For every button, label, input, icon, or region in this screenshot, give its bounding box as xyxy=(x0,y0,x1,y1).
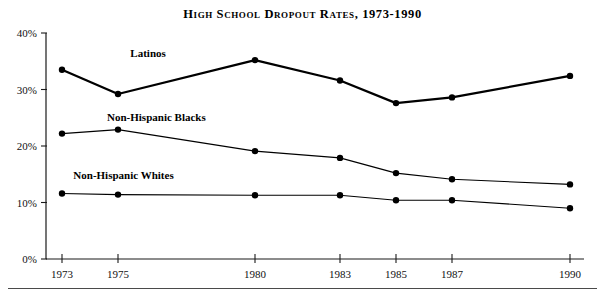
chart-figure: High School Dropout Rates, 1973-1990 0%1… xyxy=(0,0,605,299)
x-tick-label: 1983 xyxy=(329,268,352,280)
x-axis-ticks: 1973197519801983198519871990 xyxy=(51,254,582,280)
data-point-marker xyxy=(252,57,258,63)
data-point-marker xyxy=(337,77,343,83)
y-tick-label: 40% xyxy=(17,27,37,39)
x-tick-label: 1985 xyxy=(385,268,408,280)
chart-title: High School Dropout Rates, 1973-1990 xyxy=(0,7,605,22)
data-point-marker xyxy=(252,148,258,154)
data-series-group xyxy=(59,57,573,212)
data-point-marker xyxy=(567,181,573,187)
data-point-marker xyxy=(393,100,399,106)
data-point-marker xyxy=(115,91,121,97)
data-point-marker xyxy=(567,205,573,211)
data-point-marker xyxy=(337,155,343,161)
data-point-marker xyxy=(567,73,573,79)
y-tick-label: 30% xyxy=(17,84,37,96)
data-point-marker xyxy=(449,197,455,203)
data-point-marker xyxy=(59,130,65,136)
y-tick-label: 20% xyxy=(17,140,37,152)
data-point-marker xyxy=(449,94,455,100)
x-tick-label: 1980 xyxy=(244,268,267,280)
series-labels-group: LatinosNon-Hispanic BlacksNon-Hispanic W… xyxy=(73,47,206,181)
x-tick-label: 1973 xyxy=(51,268,74,280)
data-point-marker xyxy=(337,192,343,198)
data-point-marker xyxy=(393,197,399,203)
x-tick-label: 1990 xyxy=(559,268,582,280)
line-chart-plot: 0%10%20%30%40% 1973197519801983198519871… xyxy=(0,0,605,299)
footer-divider xyxy=(8,288,597,289)
series-line-non-hispanic-whites xyxy=(62,194,570,209)
y-tick-label: 0% xyxy=(22,253,37,265)
data-point-marker xyxy=(115,191,121,197)
data-point-marker xyxy=(449,176,455,182)
data-point-marker xyxy=(252,192,258,198)
x-tick-label: 1975 xyxy=(107,268,130,280)
x-tick-label: 1987 xyxy=(441,268,464,280)
data-point-marker xyxy=(393,170,399,176)
y-tick-label: 10% xyxy=(17,197,37,209)
series-label-non-hispanic-blacks: Non-Hispanic Blacks xyxy=(107,111,206,123)
y-axis-ticks: 0%10%20%30%40% xyxy=(17,27,47,265)
series-label-non-hispanic-whites: Non-Hispanic Whites xyxy=(73,169,174,181)
series-line-latinos xyxy=(62,60,570,103)
data-point-marker xyxy=(59,190,65,196)
data-point-marker xyxy=(59,67,65,73)
series-label-latinos: Latinos xyxy=(130,47,166,59)
chart-axes xyxy=(46,33,584,259)
data-point-marker xyxy=(115,126,121,132)
